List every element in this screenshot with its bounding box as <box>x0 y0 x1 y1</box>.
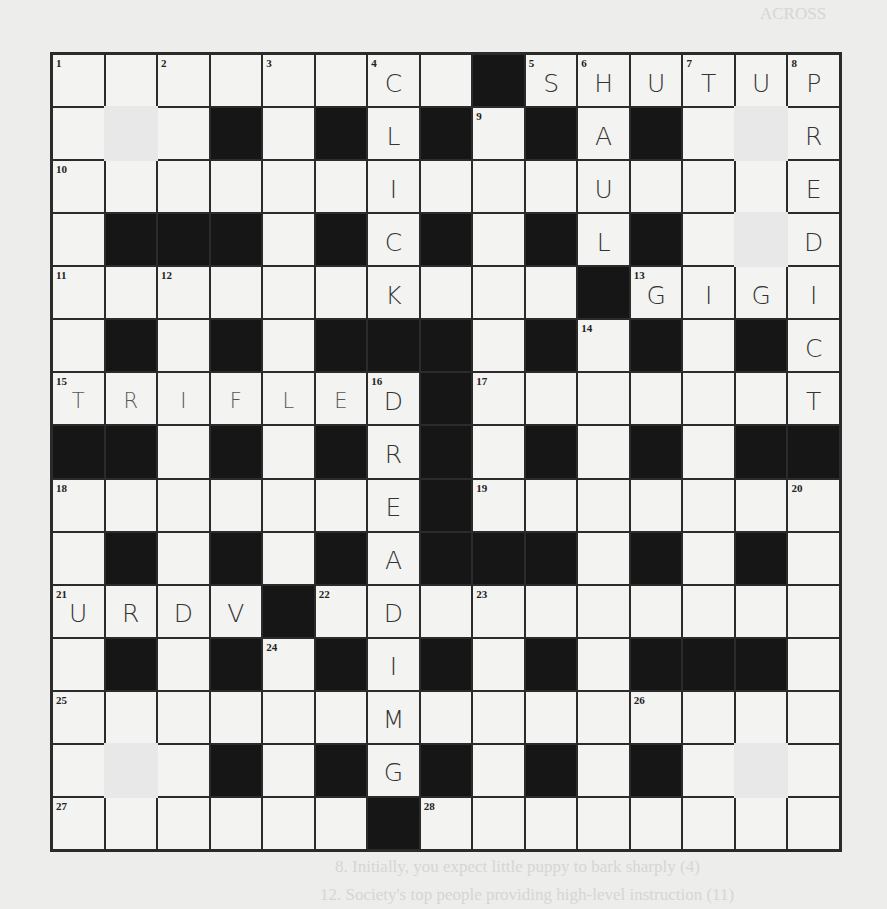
answer-square[interactable] <box>158 320 209 371</box>
answer-square[interactable] <box>263 692 314 743</box>
answer-square[interactable] <box>421 161 472 212</box>
answer-square[interactable]: 15T <box>53 373 104 424</box>
answer-square[interactable] <box>158 108 209 159</box>
answer-square[interactable] <box>788 692 839 743</box>
answer-square[interactable]: L <box>368 108 419 159</box>
answer-square[interactable] <box>631 161 682 212</box>
answer-square[interactable]: R <box>788 108 839 159</box>
answer-square[interactable] <box>106 692 157 743</box>
answer-square[interactable] <box>263 214 314 265</box>
answer-square[interactable] <box>683 745 734 796</box>
answer-square[interactable]: 10 <box>53 161 104 212</box>
answer-square[interactable] <box>683 161 734 212</box>
answer-square[interactable] <box>736 692 787 743</box>
answer-square[interactable] <box>53 745 104 796</box>
answer-square[interactable]: 20 <box>788 480 839 531</box>
answer-square[interactable]: 9 <box>473 108 524 159</box>
answer-square[interactable] <box>53 108 104 159</box>
answer-square[interactable]: 28 <box>421 798 472 849</box>
obscured-square[interactable] <box>734 743 789 798</box>
answer-square[interactable]: V <box>211 586 262 637</box>
answer-square[interactable] <box>158 745 209 796</box>
answer-square[interactable] <box>263 745 314 796</box>
answer-square[interactable] <box>263 267 314 318</box>
answer-square[interactable] <box>158 639 209 690</box>
answer-square[interactable] <box>158 798 209 849</box>
answer-square[interactable] <box>316 161 367 212</box>
answer-square[interactable] <box>263 533 314 584</box>
answer-square[interactable] <box>211 55 262 106</box>
answer-square[interactable] <box>683 798 734 849</box>
answer-square[interactable] <box>683 480 734 531</box>
answer-square[interactable] <box>263 426 314 477</box>
answer-square[interactable] <box>578 639 629 690</box>
answer-square[interactable]: 18 <box>53 480 104 531</box>
answer-square[interactable] <box>683 214 734 265</box>
answer-square[interactable] <box>158 692 209 743</box>
answer-square[interactable] <box>53 320 104 371</box>
answer-square[interactable]: U <box>578 161 629 212</box>
obscured-square[interactable] <box>734 212 789 267</box>
answer-square[interactable] <box>106 55 157 106</box>
answer-square[interactable] <box>683 373 734 424</box>
answer-square[interactable]: 8P <box>788 55 839 106</box>
answer-square[interactable]: 7T <box>683 55 734 106</box>
answer-square[interactable]: 22 <box>316 586 367 637</box>
answer-square[interactable] <box>473 214 524 265</box>
answer-square[interactable] <box>578 692 629 743</box>
answer-square[interactable]: R <box>368 426 419 477</box>
answer-square[interactable] <box>473 426 524 477</box>
answer-square[interactable] <box>631 480 682 531</box>
answer-square[interactable] <box>263 480 314 531</box>
answer-square[interactable] <box>316 798 367 849</box>
answer-square[interactable] <box>578 426 629 477</box>
answer-square[interactable]: L <box>263 373 314 424</box>
answer-square[interactable] <box>788 586 839 637</box>
answer-square[interactable] <box>211 267 262 318</box>
answer-square[interactable] <box>421 692 472 743</box>
answer-square[interactable] <box>526 480 577 531</box>
answer-square[interactable]: 21U <box>53 586 104 637</box>
answer-square[interactable]: I <box>368 161 419 212</box>
answer-square[interactable] <box>316 55 367 106</box>
answer-square[interactable]: D <box>158 586 209 637</box>
answer-square[interactable]: I <box>683 267 734 318</box>
answer-square[interactable]: 6H <box>578 55 629 106</box>
answer-square[interactable]: L <box>578 214 629 265</box>
answer-square[interactable] <box>53 214 104 265</box>
answer-square[interactable] <box>473 639 524 690</box>
answer-square[interactable] <box>473 320 524 371</box>
answer-square[interactable] <box>158 161 209 212</box>
answer-square[interactable] <box>683 533 734 584</box>
answer-square[interactable] <box>736 480 787 531</box>
answer-square[interactable]: 25 <box>53 692 104 743</box>
answer-square[interactable] <box>736 161 787 212</box>
answer-square[interactable]: E <box>316 373 367 424</box>
answer-square[interactable] <box>211 480 262 531</box>
obscured-square[interactable] <box>104 743 159 798</box>
answer-square[interactable] <box>736 586 787 637</box>
answer-square[interactable]: U <box>631 55 682 106</box>
answer-square[interactable]: 16D <box>368 373 419 424</box>
answer-square[interactable]: 27 <box>53 798 104 849</box>
answer-square[interactable] <box>631 373 682 424</box>
answer-square[interactable]: 14 <box>578 320 629 371</box>
answer-square[interactable] <box>473 798 524 849</box>
obscured-square[interactable] <box>734 106 789 161</box>
answer-square[interactable] <box>106 480 157 531</box>
answer-square[interactable] <box>421 55 472 106</box>
answer-square[interactable] <box>526 692 577 743</box>
answer-square[interactable] <box>683 108 734 159</box>
answer-square[interactable] <box>578 533 629 584</box>
answer-square[interactable] <box>736 373 787 424</box>
answer-square[interactable]: F <box>211 373 262 424</box>
answer-square[interactable]: I <box>368 639 419 690</box>
answer-square[interactable]: E <box>368 480 419 531</box>
answer-square[interactable] <box>211 692 262 743</box>
answer-square[interactable] <box>473 267 524 318</box>
answer-square[interactable]: C <box>788 320 839 371</box>
answer-square[interactable]: M <box>368 692 419 743</box>
answer-square[interactable] <box>316 692 367 743</box>
answer-square[interactable]: C <box>368 214 419 265</box>
answer-square[interactable]: 19 <box>473 480 524 531</box>
